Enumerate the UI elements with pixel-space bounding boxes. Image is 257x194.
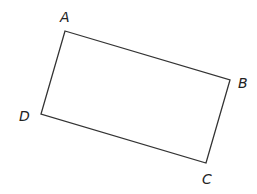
- vertex-label-a: A: [59, 9, 70, 25]
- vertex-label-d: D: [19, 108, 30, 124]
- rectangle-abcd-diagram: A B C D: [0, 0, 257, 194]
- rectangle-shape: [41, 31, 230, 163]
- vertex-label-b: B: [238, 75, 248, 91]
- vertex-label-c: C: [202, 171, 212, 187]
